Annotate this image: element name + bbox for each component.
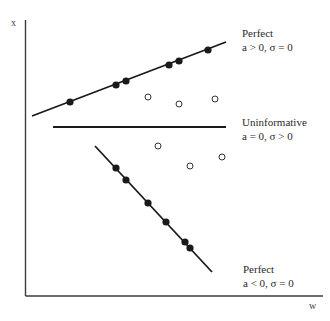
filled-data-point xyxy=(162,218,169,225)
series-1 xyxy=(53,94,226,169)
annotation-title: Perfect xyxy=(243,262,294,276)
filled-data-point xyxy=(204,46,211,53)
annotation-perfect-positive: Perfect a > 0, σ = 0 xyxy=(242,26,293,54)
open-data-point xyxy=(145,94,151,100)
annotation-title: Perfect xyxy=(242,26,293,40)
y-axis-label: x xyxy=(11,17,16,28)
filled-data-point xyxy=(175,57,182,64)
filled-data-point xyxy=(122,77,129,84)
annotation-subtitle: a < 0, σ = 0 xyxy=(243,276,294,290)
annotation-subtitle: a = 0, σ > 0 xyxy=(242,129,307,143)
filled-data-point xyxy=(112,164,119,171)
trend-line xyxy=(32,42,226,116)
open-data-point xyxy=(155,143,161,149)
filled-data-point xyxy=(181,238,188,245)
open-data-point xyxy=(212,96,218,102)
trend-line xyxy=(95,146,212,272)
annotation-uninformative: Uninformative a = 0, σ > 0 xyxy=(242,115,307,143)
annotation-perfect-negative: Perfect a < 0, σ = 0 xyxy=(243,262,294,290)
filled-data-point xyxy=(144,199,151,206)
series-0 xyxy=(32,42,226,116)
open-data-point xyxy=(187,163,193,169)
x-axis-label: w xyxy=(309,300,316,311)
filled-data-point xyxy=(112,81,119,88)
filled-data-point xyxy=(165,61,172,68)
annotation-subtitle: a > 0, σ = 0 xyxy=(242,40,293,54)
annotation-title: Uninformative xyxy=(242,115,307,129)
filled-data-point xyxy=(66,98,73,105)
series-layer xyxy=(32,42,226,272)
filled-data-point xyxy=(186,244,193,251)
series-2 xyxy=(95,146,212,272)
open-data-point xyxy=(219,154,225,160)
open-data-point xyxy=(176,101,182,107)
filled-data-point xyxy=(122,176,129,183)
